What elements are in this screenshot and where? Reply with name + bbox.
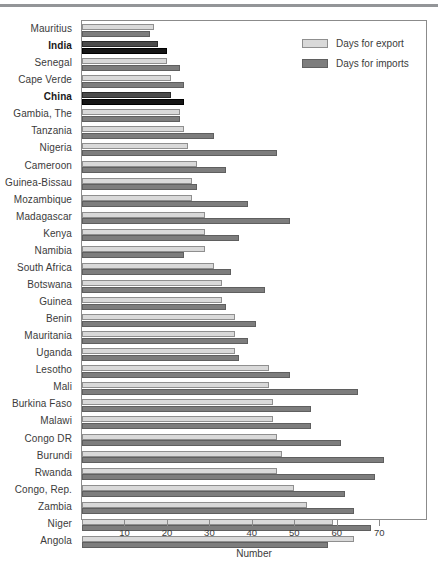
category-label: Congo DR bbox=[0, 430, 76, 447]
bar-imports bbox=[82, 235, 239, 241]
category-label: Guinea-Bissau bbox=[0, 174, 76, 191]
category-label: Madagascar bbox=[0, 208, 76, 225]
bar-export bbox=[82, 92, 171, 98]
bar-imports bbox=[82, 31, 150, 37]
category-label: Cape Verde bbox=[0, 71, 76, 88]
bar-export bbox=[82, 178, 192, 184]
bar-row bbox=[82, 210, 426, 227]
category-label: Mauritania bbox=[0, 327, 76, 344]
bar-imports bbox=[82, 474, 375, 480]
category-label: Namibia bbox=[0, 242, 76, 259]
bar-row bbox=[82, 380, 426, 397]
bar-row bbox=[82, 278, 426, 295]
bar-imports bbox=[82, 99, 184, 105]
category-axis-labels: MauritiusIndiaSenegalCape VerdeChinaGamb… bbox=[0, 20, 76, 549]
bar-row bbox=[82, 176, 426, 193]
category-label: Cameroon bbox=[0, 157, 76, 174]
bar-imports bbox=[82, 321, 256, 327]
bar-imports bbox=[82, 491, 345, 497]
bar-row bbox=[82, 346, 426, 363]
bar-imports bbox=[82, 508, 354, 514]
bar-imports bbox=[82, 457, 384, 463]
bar-row bbox=[82, 107, 426, 124]
x-axis-tick bbox=[379, 520, 380, 526]
chart-container: MauritiusIndiaSenegalCape VerdeChinaGamb… bbox=[0, 0, 438, 579]
category-label: Botswana bbox=[0, 276, 76, 293]
category-label: Tanzania bbox=[0, 122, 76, 139]
x-axis-tick-label: 60 bbox=[332, 527, 343, 538]
category-label: Lesotho bbox=[0, 361, 76, 378]
category-label: Mauritius bbox=[0, 20, 76, 37]
bar-imports bbox=[82, 48, 167, 54]
bar-row bbox=[82, 312, 426, 329]
bar-export bbox=[82, 365, 269, 371]
bar-imports bbox=[82, 287, 265, 293]
bar-imports bbox=[82, 65, 180, 71]
category-label: China bbox=[0, 88, 76, 105]
bar-export bbox=[82, 109, 180, 115]
plot-area: Days for export Days for imports bbox=[81, 20, 427, 520]
bar-row bbox=[82, 261, 426, 278]
bar-export bbox=[82, 468, 277, 474]
x-axis-tick-label: 10 bbox=[119, 527, 130, 538]
bar-export bbox=[82, 399, 273, 405]
bar-row bbox=[82, 141, 426, 158]
legend-item-export: Days for export bbox=[302, 35, 409, 52]
bar-export bbox=[82, 212, 205, 218]
legend-label-export: Days for export bbox=[336, 38, 404, 49]
bar-row bbox=[82, 159, 426, 176]
legend: Days for export Days for imports bbox=[302, 35, 409, 75]
legend-item-imports: Days for imports bbox=[302, 55, 409, 72]
bar-export bbox=[82, 434, 277, 440]
category-label: Guinea bbox=[0, 293, 76, 310]
bar-imports bbox=[82, 201, 248, 207]
bar-export bbox=[82, 195, 192, 201]
bar-row bbox=[82, 449, 426, 466]
bar-imports bbox=[82, 218, 290, 224]
x-axis-tick-label: 40 bbox=[247, 527, 258, 538]
category-label: Benin bbox=[0, 310, 76, 327]
category-label: Nigeria bbox=[0, 139, 76, 156]
bar-export bbox=[82, 348, 235, 354]
bar-imports bbox=[82, 116, 180, 122]
top-divider bbox=[0, 4, 438, 7]
category-label: Rwanda bbox=[0, 464, 76, 481]
bar-export bbox=[82, 331, 235, 337]
x-axis-tick-label: 50 bbox=[289, 527, 300, 538]
category-label: Gambia, The bbox=[0, 105, 76, 122]
x-axis-tick-label: 70 bbox=[374, 527, 385, 538]
bar-imports bbox=[82, 389, 358, 395]
bar-row bbox=[82, 466, 426, 483]
x-axis-tick bbox=[167, 520, 168, 526]
bar-row bbox=[82, 295, 426, 312]
export-swatch-icon bbox=[302, 39, 328, 48]
bar-imports bbox=[82, 372, 290, 378]
x-axis-tick-label: 20 bbox=[162, 527, 173, 538]
bar-export bbox=[82, 416, 273, 422]
bar-row bbox=[82, 329, 426, 346]
bar-export bbox=[82, 382, 269, 388]
bar-export bbox=[82, 41, 158, 47]
bar-imports bbox=[82, 338, 248, 344]
category-label: Mali bbox=[0, 378, 76, 395]
category-label: South Africa bbox=[0, 259, 76, 276]
bar-export bbox=[82, 485, 294, 491]
x-axis-tick-label: 30 bbox=[204, 527, 215, 538]
bar-row bbox=[82, 244, 426, 261]
bar-imports bbox=[82, 423, 311, 429]
bar-imports bbox=[82, 82, 184, 88]
bar-row bbox=[82, 124, 426, 141]
legend-label-imports: Days for imports bbox=[336, 58, 409, 69]
x-axis-title: Number bbox=[81, 548, 427, 559]
x-axis-tick bbox=[337, 520, 338, 526]
bar-row bbox=[82, 193, 426, 210]
bar-row bbox=[82, 90, 426, 107]
x-axis-tick bbox=[252, 520, 253, 526]
bar-row bbox=[82, 500, 426, 517]
bar-row bbox=[82, 414, 426, 431]
bar-export bbox=[82, 58, 167, 64]
bar-imports bbox=[82, 150, 277, 156]
bar-row bbox=[82, 227, 426, 244]
category-label: Mozambique bbox=[0, 191, 76, 208]
bar-row bbox=[82, 432, 426, 449]
